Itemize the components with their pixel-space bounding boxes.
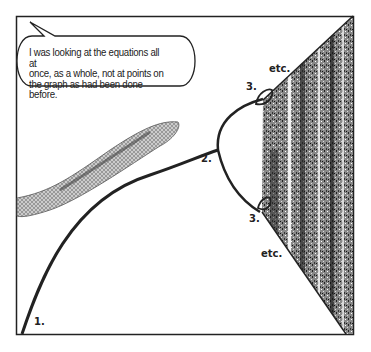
- chaos-region: [250, 10, 360, 340]
- label-etc-upper: etc.: [269, 63, 290, 74]
- bubble-line: I was looking at the equations all at: [29, 47, 167, 68]
- speech-bubble-text: I was looking at the equations all at on…: [29, 47, 167, 100]
- label-point-3-lower: 3.: [249, 213, 260, 224]
- label-point-2: 2.: [201, 153, 212, 164]
- comic-panel: I was looking at the equations all at on…: [0, 0, 371, 352]
- label-etc-lower: etc.: [261, 248, 282, 259]
- bubble-line: once, as a whole, not at points on: [29, 68, 167, 79]
- label-point-1: 1.: [34, 316, 45, 327]
- label-point-3-upper: 3.: [246, 81, 257, 92]
- bifurcation-curve: [22, 150, 218, 334]
- bubble-line: the graph as had been done before.: [29, 79, 167, 100]
